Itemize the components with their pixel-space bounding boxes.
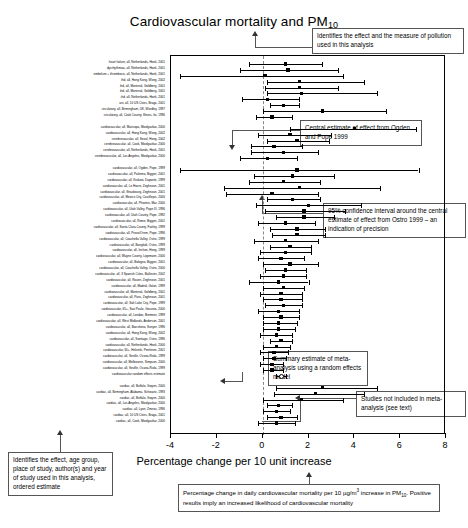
point-estimate-marker [277, 321, 280, 324]
point-estimate-marker [275, 333, 278, 336]
confidence-interval-cap [180, 74, 181, 79]
confidence-interval-cap [338, 68, 339, 73]
confidence-interval-cap [263, 409, 264, 414]
study-label-column: heart failure, all, Netherlands, Hoek, 2… [0, 55, 168, 434]
confidence-interval-cap [267, 80, 268, 85]
study-label: cardiovascular, all, Maricopa, Moolgavka… [101, 126, 165, 129]
study-label: cardiovascular, all, Rome, Biggeri, 2001 [111, 220, 165, 223]
confidence-interval-cap [263, 109, 264, 114]
confidence-interval-bar [242, 99, 299, 100]
point-estimate-marker [279, 416, 282, 419]
study-label: cardiovascular random effects estimate [112, 373, 165, 376]
confidence-interval-cap [286, 374, 287, 379]
point-estimate-marker [282, 286, 285, 289]
confidence-interval-cap [325, 227, 326, 232]
study-label: cardiovascular, all, Coachella Valley, O… [99, 267, 165, 270]
confidence-interval-cap [256, 115, 257, 120]
confidence-interval-cap [345, 209, 346, 214]
summary-estimate-marker [279, 374, 284, 379]
study-label: cardiac, all, Birmingham, Alabama, Schwa… [96, 391, 165, 394]
note-x-axis: Percentage change in daily cardiovascula… [178, 484, 440, 512]
plot-frame [170, 55, 445, 434]
confidence-interval-cap [270, 227, 271, 232]
confidence-interval-cap [295, 421, 296, 426]
confidence-interval-cap [263, 368, 264, 373]
point-estimate-marker [282, 180, 285, 183]
confidence-interval-bar [276, 388, 377, 389]
confidence-interval-cap [318, 192, 319, 197]
x-tick [170, 433, 171, 438]
confidence-interval-cap [364, 392, 365, 397]
point-estimate-marker [286, 68, 289, 71]
confidence-interval-bar [265, 88, 338, 89]
study-label: cardiovascular, all, Bologna, Biggeri, 2… [108, 261, 165, 264]
confidence-interval-cap [297, 156, 298, 161]
x-tick [399, 433, 400, 438]
study-label: ihd, all, Netherlands, Hoek, 2001 [121, 96, 165, 99]
confidence-interval-cap [263, 321, 264, 326]
confidence-interval-cap [292, 333, 293, 338]
confidence-interval-cap [265, 303, 266, 308]
confidence-interval-cap [286, 356, 287, 361]
confidence-interval-cap [320, 180, 321, 185]
title-text: Cardiovascular mortality and PM [130, 14, 328, 29]
point-estimate-marker [270, 115, 273, 118]
confidence-interval-cap [260, 250, 261, 255]
xaxis-note-2: increase in PM [361, 489, 401, 496]
point-estimate-marker [279, 298, 282, 301]
point-estimate-marker [277, 310, 280, 313]
figure-root: Cardiovascular mortality and PM10 Identi… [0, 0, 468, 528]
x-tick-label: 6 [387, 440, 411, 450]
study-label: cardiovascular, all, West Midlands, Ande… [96, 320, 165, 323]
confidence-interval-cap [386, 109, 387, 114]
confidence-interval-cap [240, 156, 241, 161]
confidence-interval-cap [318, 262, 319, 267]
point-estimate-marker [284, 251, 287, 254]
confidence-interval-cap [299, 103, 300, 108]
study-label: cardiovascular, all, Netherlands, Hoek, … [105, 344, 165, 347]
point-estimate-marker [272, 145, 275, 148]
point-estimate-marker [288, 133, 291, 136]
confidence-interval-cap [270, 339, 271, 344]
study-label: cerebrovascular, all, Los Angeles, Moolg… [95, 155, 165, 158]
confidence-interval-cap [267, 403, 268, 408]
point-estimate-marker [275, 345, 278, 348]
point-estimate-marker [277, 327, 280, 330]
confidence-interval-cap [263, 345, 264, 350]
point-estimate-marker [282, 151, 285, 154]
study-label: cardiovascular, all, Coachella Valley, O… [99, 238, 165, 241]
study-label: ihd, all, Hong Kong, Wong, 2002 [121, 79, 165, 82]
study-label: cardiovascular, all, Santa Clara County,… [94, 226, 165, 229]
point-estimate-marker [288, 262, 291, 265]
study-label: cardiovascular, all, Seville, Ocana-Riol… [103, 355, 165, 358]
point-estimate-marker [291, 174, 294, 177]
x-tick-label: 2 [296, 440, 320, 450]
point-estimate-marker [272, 357, 275, 360]
x-tick-label: 0 [250, 440, 274, 450]
point-estimate-marker [302, 215, 305, 218]
confidence-interval-cap [377, 91, 378, 96]
confidence-interval-cap [276, 386, 277, 391]
study-label: cardiovascular, all, Utah County, Pope, … [105, 214, 165, 217]
study-label: cardiovascular, all, Seville, Ocana-Riol… [103, 367, 165, 370]
point-estimate-marker [300, 92, 303, 95]
confidence-interval-cap [318, 150, 319, 155]
point-estimate-marker [307, 204, 310, 207]
confidence-interval-cap [224, 186, 225, 191]
confidence-interval-cap [260, 292, 261, 297]
study-label: cardiac, all, Buffalo, Gwynn, 2000 [120, 397, 165, 400]
confidence-interval-cap [334, 215, 335, 220]
confidence-interval-cap [260, 362, 261, 367]
study-label: circulatory, all, Cook County, Illinois,… [104, 114, 165, 117]
study-label: cardiovascular, all, Utah Valley, Pope I… [103, 208, 165, 211]
confidence-interval-cap [254, 174, 255, 179]
confidence-interval-cap [270, 103, 271, 108]
point-estimate-marker [282, 104, 285, 107]
confidence-interval-cap [256, 203, 257, 208]
point-estimate-marker [298, 80, 301, 83]
title-note-leader-h [255, 47, 312, 48]
study-label: cardiovascular, all, 3 Spanish Cities, B… [95, 273, 165, 276]
confidence-interval-cap [299, 315, 300, 320]
x-tick [445, 433, 446, 438]
confidence-interval-cap [258, 133, 259, 138]
